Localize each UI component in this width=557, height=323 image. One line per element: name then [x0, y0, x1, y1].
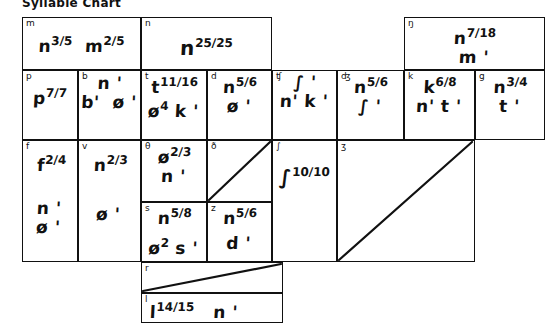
- cell-text-tsh-1: ∫ ': [273, 73, 337, 92]
- page-title: Syllable Chart: [22, 0, 322, 10]
- cell-text-dzh-1: n5/6: [338, 73, 404, 97]
- cell-k[interactable]: k k6/8 n' t ': [404, 70, 475, 140]
- cell-text-z-1: n5/6: [208, 204, 272, 228]
- cell-text-g-1: n3/4: [476, 73, 545, 97]
- cell-text-m-1: n3/5 m2/5: [22, 32, 140, 56]
- cell-text-d-2: ø ': [207, 97, 271, 116]
- cell-v[interactable]: v n2/3 ø ': [78, 140, 141, 262]
- cell-label-f: f: [26, 141, 29, 151]
- cell-s[interactable]: s n5/8 ø2 s ': [141, 202, 207, 262]
- cell-label-ezh: ʒ: [341, 141, 346, 151]
- cell-dzh[interactable]: ʤ n5/6 ∫ ': [337, 70, 404, 140]
- cell-n[interactable]: n n25/25: [141, 17, 272, 70]
- cell-text-n-1: n25/25: [141, 34, 271, 58]
- cell-eth[interactable]: ð: [207, 140, 272, 202]
- cell-text-b-1: n ': [79, 74, 141, 93]
- cell-text-k-2: n' t ': [404, 97, 474, 116]
- cell-text-esh-1: ∫10/10: [272, 163, 336, 187]
- cell-text-z-2: d ': [207, 234, 271, 253]
- cell-text-b-2: b' ø ': [78, 93, 140, 112]
- cell-b[interactable]: b n ' b' ø ': [78, 70, 141, 140]
- cell-text-d-1: n5/6: [208, 73, 272, 97]
- cell-text-f-3: ø ': [21, 218, 76, 237]
- cell-esh[interactable]: ∫ ∫10/10: [272, 140, 337, 262]
- cell-label-esh: ∫: [276, 141, 281, 151]
- cell-text-p-1: p7/7: [22, 84, 77, 108]
- cell-l[interactable]: l l14/15 n ': [141, 293, 283, 323]
- cell-g[interactable]: g n3/4 t ': [475, 70, 545, 140]
- cell-text-tsh-2: n' k ': [272, 92, 336, 111]
- cell-text-v-2: ø ': [77, 205, 139, 224]
- cell-tsh[interactable]: ʧ ∫ ' n' k ': [272, 70, 337, 140]
- cell-text-g-2: t ': [475, 97, 544, 116]
- cell-text-eng-1: n7/18: [405, 24, 545, 48]
- cell-ezh[interactable]: ʒ: [337, 140, 475, 262]
- cell-text-s-2: ø2 s ': [141, 234, 206, 258]
- cell-text-t-2: ø4 k ': [141, 97, 206, 121]
- cell-label-r: r: [145, 263, 149, 273]
- cell-t[interactable]: t t11/16 ø4 k ': [141, 70, 207, 140]
- cell-label-m: m: [26, 18, 35, 28]
- cell-theta[interactable]: θ ø2/3 n ': [141, 140, 207, 202]
- cell-label-v: v: [82, 141, 87, 151]
- cell-f[interactable]: f f2/4 n ' ø ': [22, 140, 78, 262]
- cell-p[interactable]: p p7/7: [22, 70, 78, 140]
- cell-eng[interactable]: ŋ n7/18 m ': [404, 17, 545, 70]
- cell-text-k-1: k6/8: [405, 73, 475, 97]
- cell-text-f-2: n ': [22, 199, 77, 218]
- cell-text-s-1: n5/8: [142, 204, 207, 228]
- cell-text-t-1: t11/16: [142, 73, 207, 97]
- cell-text-f-1: f2/4: [24, 151, 79, 175]
- cell-z[interactable]: z n5/6 d ': [207, 202, 272, 262]
- cell-label-n: n: [145, 18, 151, 28]
- cell-text-eng-2: m ': [404, 48, 544, 67]
- cell-text-v-1: n2/3: [80, 151, 142, 175]
- cell-label-eth: ð: [211, 141, 217, 151]
- cell-label-p: p: [26, 71, 32, 81]
- cell-text-theta-2: n ': [141, 167, 206, 186]
- cell-text-l-1: l14/15 n ': [149, 298, 282, 322]
- cell-text-theta-1: ø2/3: [142, 143, 207, 167]
- cell-text-dzh-2: ∫ ': [337, 97, 403, 116]
- cell-m[interactable]: m n3/5 m2/5: [22, 17, 141, 70]
- cell-d[interactable]: d n5/6 ø ': [207, 70, 272, 140]
- cell-r[interactable]: r: [141, 262, 283, 293]
